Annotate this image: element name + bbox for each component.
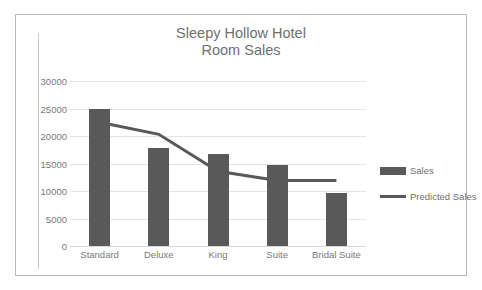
y-axis-tick-label: 5000 bbox=[46, 213, 67, 224]
y-axis-tick-label: 0 bbox=[62, 241, 67, 252]
x-axis-tick-label: Bridal Suite bbox=[312, 249, 361, 260]
legend-item-label: Predicted Sales bbox=[410, 191, 477, 202]
chart-title-line-2: Room Sales bbox=[16, 42, 466, 59]
gridline bbox=[70, 246, 366, 247]
legend-line-swatch-icon bbox=[380, 195, 406, 198]
x-axis-tick-label: Deluxe bbox=[144, 249, 174, 260]
x-axis-tick-label: King bbox=[208, 249, 227, 260]
y-axis-tick-label: 30000 bbox=[41, 76, 67, 87]
chart-container: Sleepy Hollow Hotel Room Sales 050001000… bbox=[15, 14, 467, 276]
x-axis-tick-label: Standard bbox=[80, 249, 119, 260]
legend-item-label: Sales bbox=[410, 165, 434, 176]
y-axis-tick-label: 25000 bbox=[41, 103, 67, 114]
legend-bar-swatch-icon bbox=[380, 167, 406, 175]
chart-title: Sleepy Hollow Hotel Room Sales bbox=[16, 25, 466, 59]
y-axis-tick-label: 20000 bbox=[41, 131, 67, 142]
plot-area bbox=[70, 81, 366, 246]
legend-item-sales: Sales bbox=[380, 165, 482, 176]
chart-legend: Sales Predicted Sales bbox=[380, 165, 482, 217]
line-series-predicted-sales bbox=[70, 81, 366, 246]
legend-item-predicted-sales: Predicted Sales bbox=[380, 191, 482, 202]
y-axis-tick-label: 10000 bbox=[41, 186, 67, 197]
x-axis-tick-labels: StandardDeluxeKingSuiteBridal Suite bbox=[70, 249, 366, 267]
y-axis-tick-labels: 050001000015000200002500030000 bbox=[21, 81, 67, 246]
x-axis-tick-label: Suite bbox=[266, 249, 288, 260]
chart-title-line-1: Sleepy Hollow Hotel bbox=[16, 25, 466, 42]
y-axis-tick-label: 15000 bbox=[41, 158, 67, 169]
line-path bbox=[100, 122, 337, 180]
